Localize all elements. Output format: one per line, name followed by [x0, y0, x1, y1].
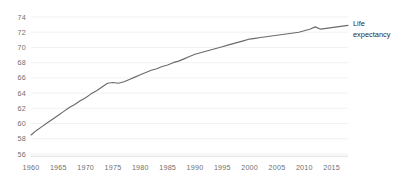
y-tick-56: 56	[18, 150, 26, 159]
x-tick-2005: 2005	[269, 163, 286, 172]
line-chart: 56586062646668707274 1960196519701975198…	[0, 0, 403, 184]
data-line-life-expectancy	[31, 25, 348, 135]
chart-canvas: 56586062646668707274 1960196519701975198…	[0, 0, 403, 184]
series-label-line2: expectancy	[353, 30, 391, 39]
y-tick-68: 68	[18, 58, 26, 67]
series-label-line1: Life	[353, 19, 365, 28]
x-tick-1965: 1965	[50, 163, 67, 172]
x-axis-tick-labels: 1960196519701975198019851990199520002005…	[23, 163, 340, 172]
y-axis-tick-labels: 56586062646668707274	[18, 13, 26, 159]
x-tick-1980: 1980	[132, 163, 149, 172]
y-tick-62: 62	[18, 104, 26, 113]
y-tick-58: 58	[18, 134, 26, 143]
x-tick-1970: 1970	[77, 163, 94, 172]
y-tick-74: 74	[18, 13, 26, 22]
x-tick-2015: 2015	[323, 163, 340, 172]
y-tick-72: 72	[18, 28, 26, 37]
x-tick-1960: 1960	[23, 163, 40, 172]
x-tick-1985: 1985	[159, 163, 176, 172]
x-tick-1995: 1995	[214, 163, 231, 172]
gridlines	[31, 17, 348, 154]
x-tick-1990: 1990	[187, 163, 204, 172]
x-tick-2000: 2000	[241, 163, 258, 172]
y-tick-60: 60	[18, 119, 26, 128]
y-tick-70: 70	[18, 43, 26, 52]
x-tick-1975: 1975	[105, 163, 122, 172]
y-tick-64: 64	[18, 89, 26, 98]
x-tick-2010: 2010	[296, 163, 313, 172]
y-tick-66: 66	[18, 73, 26, 82]
